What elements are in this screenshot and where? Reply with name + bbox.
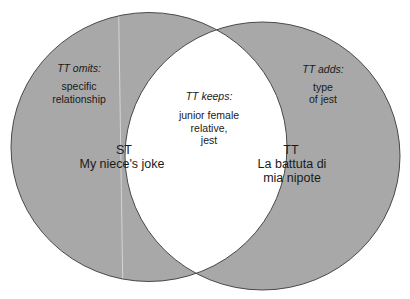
overlap-heading: TT keeps: [186, 91, 233, 102]
left-region-heading: TT omits: [57, 63, 101, 74]
right-set-name-line-1: La battuta di [258, 158, 327, 171]
venn-diagram [0, 0, 410, 299]
overlap-line-2: relative, [191, 123, 228, 134]
overlap-line-3: jest [201, 135, 217, 146]
left-region-line-2: relationship [52, 94, 106, 105]
left-set-name: My niece's joke [79, 158, 164, 171]
left-region-line-1: specific [61, 81, 96, 92]
right-region-line-1: type [313, 82, 333, 93]
left-set-code: ST [116, 144, 132, 157]
right-set-name-line-2: mia nipote [263, 172, 321, 185]
right-region-heading: TT adds: [302, 64, 343, 75]
right-set-code: TT [283, 144, 298, 157]
overlap-line-1: junior female [179, 110, 239, 121]
right-region-line-2: of jest [309, 94, 337, 105]
